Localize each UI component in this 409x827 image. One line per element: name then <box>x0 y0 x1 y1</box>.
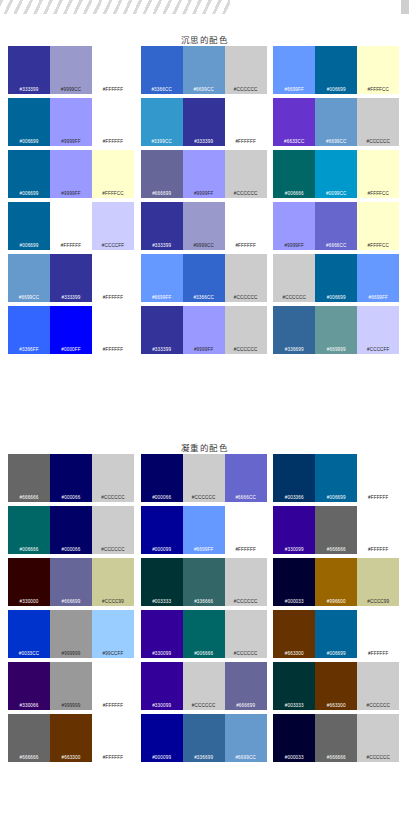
color-swatch[interactable]: #CCCCCC <box>225 254 267 302</box>
color-swatch[interactable]: #CCCCCC <box>273 254 315 302</box>
color-swatch[interactable]: #CCCCCC <box>225 610 267 658</box>
color-swatch[interactable]: #0099CC <box>315 150 357 198</box>
color-swatch[interactable]: #999999 <box>50 610 92 658</box>
color-swatch[interactable]: #336699 <box>183 714 225 762</box>
color-swatch[interactable]: #000066 <box>50 506 92 554</box>
color-swatch[interactable]: #6699FF <box>141 254 183 302</box>
color-swatch[interactable]: #003366 <box>273 454 315 502</box>
color-swatch[interactable]: #6666CC <box>225 454 267 502</box>
palette-swatch-group[interactable]: #330099#666666#FFFFFF <box>273 506 401 554</box>
color-swatch[interactable]: #FFFFCC <box>357 46 399 94</box>
color-swatch[interactable]: #000099 <box>141 714 183 762</box>
color-swatch[interactable]: #FFFFFF <box>225 506 267 554</box>
palette-swatch-group[interactable]: #000033#996600#CCCC99 <box>273 558 401 606</box>
color-swatch[interactable]: #CCCC99 <box>92 558 134 606</box>
color-swatch[interactable]: #663300 <box>315 662 357 710</box>
color-swatch[interactable]: #FFFFFF <box>225 202 267 250</box>
color-swatch[interactable]: #006699 <box>8 98 50 146</box>
color-swatch[interactable]: #CCCCCC <box>225 306 267 354</box>
color-swatch[interactable]: #FFFFFF <box>225 98 267 146</box>
palette-swatch-group[interactable]: #333399#9999FF#CCCCCC <box>141 306 269 354</box>
color-swatch[interactable]: #CCCCCC <box>225 558 267 606</box>
color-swatch[interactable]: #CCCCCC <box>225 46 267 94</box>
color-swatch[interactable]: #333399 <box>8 46 50 94</box>
color-swatch[interactable]: #006699 <box>8 202 50 250</box>
color-swatch[interactable]: #333399 <box>50 254 92 302</box>
color-swatch[interactable]: #6699CC <box>315 98 357 146</box>
palette-swatch-group[interactable]: #CCCCCC#006699#6699FF <box>273 254 401 302</box>
palette-swatch-group[interactable]: #003333#336666#CCCCCC <box>141 558 269 606</box>
color-swatch[interactable]: #9999CC <box>183 202 225 250</box>
color-swatch[interactable]: #FFFFFF <box>92 714 134 762</box>
palette-swatch-group[interactable]: #9999FF#6666CC#FFFFCC <box>273 202 401 250</box>
color-swatch[interactable]: #6699CC <box>8 254 50 302</box>
color-swatch[interactable]: #000033 <box>273 558 315 606</box>
color-swatch[interactable]: #FFFFFF <box>357 506 399 554</box>
color-swatch[interactable]: #669999 <box>315 306 357 354</box>
palette-swatch-group[interactable]: #000066#CCCCCC#6666CC <box>141 454 269 502</box>
color-swatch[interactable]: #666699 <box>225 662 267 710</box>
palette-swatch-group[interactable]: #666666#000066#CCCCCC <box>8 454 136 502</box>
color-swatch[interactable]: #6633CC <box>273 98 315 146</box>
color-swatch[interactable]: #666699 <box>50 558 92 606</box>
color-swatch[interactable]: #330099 <box>141 662 183 710</box>
color-swatch[interactable]: #996600 <box>315 558 357 606</box>
color-swatch[interactable]: #6699CC <box>183 46 225 94</box>
color-swatch[interactable]: #CCCCFF <box>92 202 134 250</box>
color-swatch[interactable]: #FFFFFF <box>92 306 134 354</box>
palette-swatch-group[interactable]: #6699FF#3366CC#CCCCCC <box>141 254 269 302</box>
palette-swatch-group[interactable]: #333399#9999CC#FFFFFF <box>141 202 269 250</box>
color-swatch[interactable]: #330066 <box>8 662 50 710</box>
palette-swatch-group[interactable]: #003333#663300#CCCCCC <box>273 662 401 710</box>
color-swatch[interactable]: #006699 <box>315 454 357 502</box>
color-swatch[interactable]: #006666 <box>273 150 315 198</box>
color-swatch[interactable]: #333399 <box>183 98 225 146</box>
color-swatch[interactable]: #003333 <box>273 662 315 710</box>
color-swatch[interactable]: #9999CC <box>50 46 92 94</box>
palette-swatch-group[interactable]: #000099#336699#6699CC <box>141 714 269 762</box>
color-swatch[interactable]: #CCCCFF <box>357 306 399 354</box>
color-swatch[interactable]: #000066 <box>50 454 92 502</box>
palette-swatch-group[interactable]: #006666#0099CC#FFFFCC <box>273 150 401 198</box>
color-swatch[interactable]: #FFFFFF <box>92 46 134 94</box>
color-swatch[interactable]: #CCCCCC <box>183 662 225 710</box>
color-swatch[interactable]: #3399CC <box>141 98 183 146</box>
color-swatch[interactable]: #9999FF <box>50 150 92 198</box>
palette-swatch-group[interactable]: #6633CC#6699CC#CCCCCC <box>273 98 401 146</box>
color-swatch[interactable]: #666666 <box>315 506 357 554</box>
color-swatch[interactable]: #666666 <box>8 714 50 762</box>
color-swatch[interactable]: #CCCCCC <box>92 454 134 502</box>
palette-swatch-group[interactable]: #336699#669999#CCCCFF <box>273 306 401 354</box>
color-swatch[interactable]: #6666CC <box>315 202 357 250</box>
color-swatch[interactable]: #006666 <box>183 610 225 658</box>
palette-swatch-group[interactable]: #3366CC#6699CC#CCCCCC <box>141 46 269 94</box>
palette-swatch-group[interactable]: #330066#999999#FFFFFF <box>8 662 136 710</box>
color-swatch[interactable]: #0033CC <box>8 610 50 658</box>
color-swatch[interactable]: #9999FF <box>183 306 225 354</box>
palette-swatch-group[interactable]: #333399#9999CC#FFFFFF <box>8 46 136 94</box>
color-swatch[interactable]: #FFFFCC <box>357 202 399 250</box>
color-swatch[interactable]: #FFFFCC <box>92 150 134 198</box>
color-swatch[interactable]: #330000 <box>8 558 50 606</box>
palette-swatch-group[interactable]: #663300#006699#FFFFFF <box>273 610 401 658</box>
color-swatch[interactable]: #FFFFFF <box>357 454 399 502</box>
palette-swatch-group[interactable]: #000033#666666#CCCCCC <box>273 714 401 762</box>
palette-swatch-group[interactable]: #666699#9999FF#CCCCCC <box>141 150 269 198</box>
palette-swatch-group[interactable]: #6699CC#333399#FFFFFF <box>8 254 136 302</box>
color-swatch[interactable]: #CCCCCC <box>225 150 267 198</box>
color-swatch[interactable]: #6699FF <box>183 506 225 554</box>
color-swatch[interactable]: #3366FF <box>8 306 50 354</box>
color-swatch[interactable]: #CCCC99 <box>357 558 399 606</box>
palette-swatch-group[interactable]: #3366FF#0000FF#FFFFFF <box>8 306 136 354</box>
color-swatch[interactable]: #006699 <box>315 254 357 302</box>
color-swatch[interactable]: #336666 <box>183 558 225 606</box>
color-swatch[interactable]: #663300 <box>50 714 92 762</box>
color-swatch[interactable]: #3366CC <box>183 254 225 302</box>
color-swatch[interactable]: #9999FF <box>50 98 92 146</box>
color-swatch[interactable]: #000033 <box>273 714 315 762</box>
color-swatch[interactable]: #CCCCCC <box>357 714 399 762</box>
color-swatch[interactable]: #006699 <box>315 610 357 658</box>
color-swatch[interactable]: #6699FF <box>273 46 315 94</box>
color-swatch[interactable]: #FFFFFF <box>92 98 134 146</box>
palette-swatch-group[interactable]: #330000#666699#CCCC99 <box>8 558 136 606</box>
